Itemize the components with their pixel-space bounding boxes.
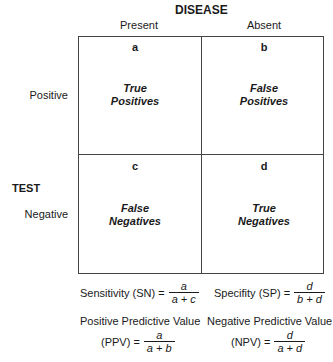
ppv-formula: (PPV) = a a + b [101,329,175,354]
cell-b-line2: Positives [214,95,314,108]
cell-a-line2: Positives [85,95,185,108]
ppv-denominator: a + b [144,341,175,354]
ppv-title: Positive Predictive Value [80,315,200,327]
cell-b-label: False Positives [214,82,314,108]
sensitivity-numerator: a [178,280,190,292]
specificity-denominator: b + d [294,292,325,305]
column-label-present: Present [99,19,179,31]
cell-c-letter: c [115,160,155,172]
npv-denominator: a + d [274,341,305,354]
cell-a-line1: True [85,82,185,95]
disease-header: DISEASE [175,3,228,17]
cell-d-line1: True [214,202,314,215]
npv-fraction: d a + d [274,329,305,354]
cell-d-label: True Negatives [214,202,314,228]
cell-b-letter: b [244,41,284,53]
grid-divider-vertical [201,36,202,274]
sensitivity-denominator: a + c [169,292,199,305]
npv-numerator: d [284,329,296,341]
ppv-label: (PPV) = [101,336,140,348]
specificity-formula: Specifity (SP) = d b + d [214,280,325,305]
cell-a-label: True Positives [85,82,185,108]
npv-title: Negative Predictive Value [207,315,332,327]
cell-c-line2: Negatives [85,215,185,228]
cell-a-letter: a [115,41,155,53]
specificity-numerator: d [303,280,315,292]
test-header: TEST [12,182,40,194]
cell-d-line2: Negatives [214,215,314,228]
specificity-fraction: d b + d [294,280,325,305]
cell-d-letter: d [244,160,284,172]
ppv-fraction: a a + b [144,329,175,354]
grid-divider-horizontal [78,154,324,155]
cell-b-line1: False [214,82,314,95]
row-label-negative: Negative [2,208,68,220]
specificity-label: Specifity (SP) = [214,287,290,299]
column-label-absent: Absent [224,19,304,31]
cell-c-line1: False [85,202,185,215]
sensitivity-label: Sensitivity (SN) = [80,287,165,299]
ppv-numerator: a [153,329,165,341]
row-label-positive: Positive [2,89,68,101]
sensitivity-formula: Sensitivity (SN) = a a + c [80,280,199,305]
sensitivity-fraction: a a + c [169,280,199,305]
npv-label: (NPV) = [231,336,270,348]
npv-formula: (NPV) = d a + d [231,329,305,354]
cell-c-label: False Negatives [85,202,185,228]
